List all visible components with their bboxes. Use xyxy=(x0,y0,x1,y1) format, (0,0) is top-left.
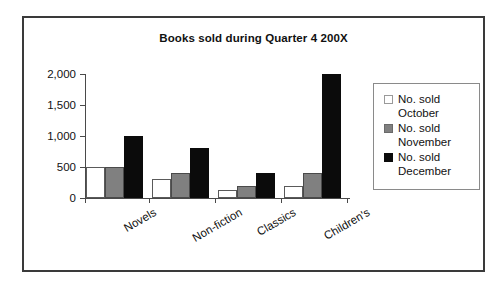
chart-title: Books sold during Quarter 4 200X xyxy=(24,32,483,44)
bar xyxy=(284,186,303,198)
x-tick-mark xyxy=(149,198,150,203)
plot-area: 05001,0001,5002,000 NovelsNon-fictionCla… xyxy=(85,74,350,198)
legend-label: No. soldDecember xyxy=(398,150,451,178)
y-tick-label: 2,000 xyxy=(47,68,76,80)
bar xyxy=(152,179,171,198)
legend-swatch-icon xyxy=(384,124,393,133)
bar xyxy=(256,173,275,198)
legend-label: No. soldNovember xyxy=(398,121,451,149)
bar xyxy=(237,186,256,198)
bar xyxy=(322,74,341,198)
legend-item[interactable]: No. soldNovember xyxy=(384,121,479,149)
x-tick-mark xyxy=(85,198,86,203)
y-tick-mark xyxy=(80,105,85,106)
bar xyxy=(218,190,237,198)
category-label: Novels xyxy=(122,206,158,234)
bar xyxy=(303,173,322,198)
y-tick-label: 500 xyxy=(57,161,76,173)
bar xyxy=(190,148,209,198)
category-label: Non-fiction xyxy=(191,206,245,244)
bar xyxy=(86,167,105,198)
legend-item[interactable]: No. soldDecember xyxy=(384,150,479,178)
bar xyxy=(124,136,143,198)
legend-label: No. soldOctober xyxy=(398,92,440,120)
x-tick-mark xyxy=(215,198,216,203)
legend-swatch-icon xyxy=(384,95,393,104)
chart-legend: No. soldOctoberNo. soldNovemberNo. soldD… xyxy=(373,83,480,190)
category-label: Children's xyxy=(322,206,372,242)
legend-label-line1: No. sold xyxy=(398,150,451,164)
legend-label-line2: December xyxy=(398,164,451,178)
chart-frame: Books sold during Quarter 4 200X 05001,0… xyxy=(22,16,485,272)
y-tick-label: 1,500 xyxy=(47,99,76,111)
y-tick-label: 0 xyxy=(70,192,76,204)
x-tick-mark xyxy=(281,198,282,203)
legend-label-line2: November xyxy=(398,135,451,149)
y-tick-mark xyxy=(80,167,85,168)
legend-label-line2: October xyxy=(398,106,440,120)
legend-label-line1: No. sold xyxy=(398,92,440,106)
legend-swatch-icon xyxy=(384,153,393,162)
bar xyxy=(105,167,124,198)
legend-item[interactable]: No. soldOctober xyxy=(384,92,479,120)
category-label: Classics xyxy=(255,206,298,238)
x-tick-mark xyxy=(347,198,348,203)
bar xyxy=(171,173,190,198)
y-tick-mark xyxy=(80,136,85,137)
y-tick-mark xyxy=(80,74,85,75)
y-tick-label: 1,000 xyxy=(47,130,76,142)
x-axis-line xyxy=(85,198,350,199)
legend-label-line1: No. sold xyxy=(398,121,451,135)
